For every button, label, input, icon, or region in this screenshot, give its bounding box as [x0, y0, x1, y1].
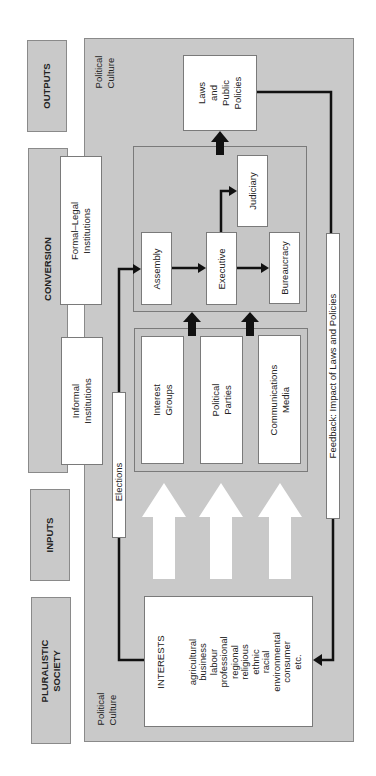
intermediary-arrowhead-1-icon	[183, 312, 201, 322]
elections-flow-line	[119, 538, 144, 660]
feedback-line-bottom	[322, 519, 333, 660]
laws-arrowhead-icon	[211, 131, 229, 142]
executive-arrowhead-icon	[198, 263, 206, 273]
intermediary-arrowhead-2-icon	[241, 312, 259, 322]
bureaucracy-arrowhead-icon	[261, 263, 269, 273]
assembly-arrowhead-icon	[133, 264, 141, 274]
feedback-line-top	[257, 92, 331, 233]
supports-arrow	[258, 483, 302, 579]
judiciary-arrowhead-icon	[229, 186, 237, 196]
elections-to-assembly-line	[119, 269, 134, 392]
demands-arrow	[142, 483, 186, 579]
connector-arrows	[119, 92, 333, 666]
expectations-arrow	[199, 483, 243, 579]
input-arrows-layer	[0, 0, 376, 776]
interests-arrowhead-icon	[313, 654, 322, 666]
